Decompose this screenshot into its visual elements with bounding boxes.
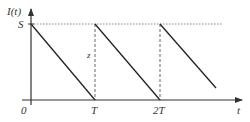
origin-label: 0 <box>21 104 27 116</box>
y-axis-label: I(t) <box>6 5 21 18</box>
x-tick-t-label: T <box>91 104 98 116</box>
sawtooth-segment-1 <box>31 24 95 100</box>
x-axis-label: t <box>237 104 241 116</box>
sawtooth-segment-3 <box>160 24 216 88</box>
sawtooth-segment-2 <box>95 24 160 100</box>
inventory-diagram: I(t) S 0 T 2T t z <box>0 0 250 122</box>
x-tick-2t-label: 2T <box>153 104 166 116</box>
s-level-label: S <box>18 18 24 30</box>
segment-z-label: z <box>86 50 91 60</box>
